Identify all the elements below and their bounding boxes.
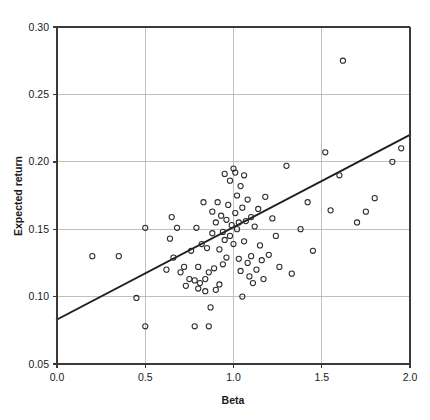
tick-marks	[53, 27, 410, 368]
data-point	[284, 163, 289, 168]
data-point	[196, 264, 201, 269]
data-point	[215, 200, 220, 205]
data-point	[363, 209, 368, 214]
data-point	[227, 178, 232, 183]
data-point	[289, 271, 294, 276]
data-point	[399, 146, 404, 151]
data-point	[354, 220, 359, 225]
x-tick-label: 1.5	[314, 371, 329, 383]
data-point	[203, 276, 208, 281]
data-point	[328, 208, 333, 213]
x-tick-label: 2.0	[403, 371, 418, 383]
data-point	[305, 200, 310, 205]
data-point	[323, 150, 328, 155]
data-point	[167, 236, 172, 241]
data-point	[245, 260, 250, 265]
data-point	[206, 270, 211, 275]
data-point	[247, 274, 252, 279]
y-axis-title: Expected return	[12, 156, 24, 236]
data-point	[164, 267, 169, 272]
data-point	[245, 197, 250, 202]
data-point	[204, 245, 209, 250]
data-point	[226, 202, 231, 207]
data-point	[178, 270, 183, 275]
data-point	[208, 305, 213, 310]
y-tick-label: 0.05	[29, 358, 50, 370]
data-point	[277, 264, 282, 269]
data-point	[183, 283, 188, 288]
y-tick-label: 0.25	[29, 88, 50, 100]
y-tick-label: 0.10	[29, 290, 50, 302]
data-point	[219, 213, 224, 218]
data-point	[236, 256, 241, 261]
data-point	[273, 233, 278, 238]
data-point	[210, 209, 215, 214]
data-point	[224, 217, 229, 222]
data-point	[263, 194, 268, 199]
data-point	[192, 278, 197, 283]
data-points	[90, 58, 404, 329]
data-point	[250, 281, 255, 286]
y-tick-label: 0.30	[29, 21, 50, 33]
data-point	[116, 254, 121, 259]
data-point	[310, 248, 315, 253]
data-point	[240, 205, 245, 210]
data-point	[266, 252, 271, 257]
data-point	[211, 266, 216, 271]
data-point	[192, 324, 197, 329]
data-point	[181, 264, 186, 269]
x-tick-label: 0.5	[138, 371, 153, 383]
data-point	[90, 254, 95, 259]
data-point	[222, 237, 227, 242]
data-point	[174, 225, 179, 230]
data-point	[340, 58, 345, 63]
data-point	[261, 276, 266, 281]
data-point	[257, 243, 262, 248]
data-point	[254, 267, 259, 272]
y-axis-tick-labels: 0.050.100.150.200.250.30	[29, 21, 50, 370]
y-tick-label: 0.15	[29, 223, 50, 235]
data-point	[270, 216, 275, 221]
data-point	[187, 276, 192, 281]
data-point	[213, 287, 218, 292]
x-tick-label: 0.0	[50, 371, 65, 383]
data-point	[256, 206, 261, 211]
data-point	[241, 173, 246, 178]
data-point	[206, 324, 211, 329]
x-axis-tick-labels: 0.00.51.01.52.0	[50, 371, 418, 383]
data-point	[222, 171, 227, 176]
data-point	[337, 173, 342, 178]
data-point	[217, 282, 222, 287]
data-point	[238, 268, 243, 273]
gridlines	[57, 27, 410, 364]
data-point	[220, 262, 225, 267]
chart-canvas: 0.00.51.01.52.0 0.050.100.150.200.250.30…	[0, 0, 430, 420]
data-point	[252, 224, 257, 229]
data-point	[196, 286, 201, 291]
data-point	[201, 200, 206, 205]
data-point	[169, 214, 174, 219]
data-point	[259, 258, 264, 263]
x-tick-label: 1.0	[226, 371, 241, 383]
data-point	[238, 183, 243, 188]
data-point	[203, 289, 208, 294]
x-axis-title: Beta	[222, 394, 245, 406]
data-point	[249, 254, 254, 259]
data-point	[241, 239, 246, 244]
data-point	[134, 295, 139, 300]
y-tick-label: 0.20	[29, 155, 50, 167]
data-point	[224, 255, 229, 260]
data-point	[210, 231, 215, 236]
data-point	[213, 220, 218, 225]
data-point	[197, 281, 202, 286]
data-point	[227, 233, 232, 238]
data-point	[217, 247, 222, 252]
scatter-plot-figure: 0.00.51.01.52.0 0.050.100.150.200.250.30…	[0, 0, 430, 420]
data-point	[372, 196, 377, 201]
data-point	[194, 225, 199, 230]
data-point	[234, 193, 239, 198]
